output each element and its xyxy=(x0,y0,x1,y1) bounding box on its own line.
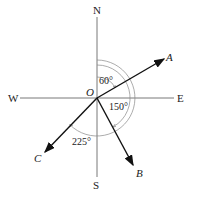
east-label: E xyxy=(177,93,184,104)
south-label: S xyxy=(93,180,99,191)
west-label: W xyxy=(8,93,18,104)
vector-a-label: A xyxy=(166,52,173,63)
vector-b-label: B xyxy=(136,168,143,179)
origin-label: O xyxy=(86,87,94,98)
vector-c-label: C xyxy=(34,153,41,164)
angle-60-label: 60° xyxy=(99,76,113,86)
compass-vector-diagram: N S W E O A B C 60° 150° 225° xyxy=(0,0,199,198)
north-label: N xyxy=(93,5,101,16)
diagram-canvas xyxy=(0,0,199,198)
angle-150-label: 150° xyxy=(109,102,128,112)
angle-225-label: 225° xyxy=(72,137,91,147)
